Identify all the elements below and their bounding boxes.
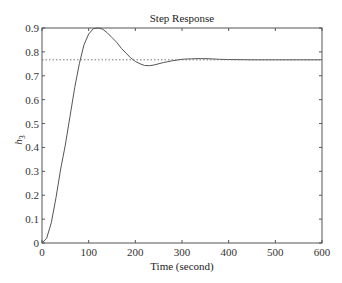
x-axis-label: Time (second) xyxy=(150,260,214,273)
y-tick-label: 0 xyxy=(34,237,40,249)
y-tick-label: 0.2 xyxy=(25,189,39,201)
y-axis-label-subscript: 3 xyxy=(18,135,27,139)
x-tick-label: 500 xyxy=(267,246,284,258)
y-tick-label: 0.7 xyxy=(25,70,39,82)
y-tick-label: 0.4 xyxy=(25,141,39,153)
x-tick-label: 300 xyxy=(174,246,191,258)
y-tick-label: 0.6 xyxy=(25,94,39,106)
plot-area xyxy=(42,28,322,243)
y-tick-label: 0.8 xyxy=(25,46,39,58)
x-tick-label: 200 xyxy=(127,246,144,258)
step-response-chart: Step Response 0100200300400500600 00.10.… xyxy=(0,0,342,283)
y-tick-label: 0.5 xyxy=(25,118,39,130)
x-tick-label: 400 xyxy=(220,246,237,258)
x-tick-label: 0 xyxy=(39,246,45,258)
y-tick-label: 0.1 xyxy=(25,213,39,225)
x-tick-label: 100 xyxy=(80,246,97,258)
y-axis-ticks: 00.10.20.30.40.50.60.70.80.9 xyxy=(25,22,322,249)
y-tick-label: 0.3 xyxy=(25,165,39,177)
x-axis-ticks: 0100200300400500600 xyxy=(39,28,331,258)
x-tick-label: 600 xyxy=(314,246,331,258)
chart-title: Step Response xyxy=(150,12,215,24)
y-tick-label: 0.9 xyxy=(25,22,39,34)
